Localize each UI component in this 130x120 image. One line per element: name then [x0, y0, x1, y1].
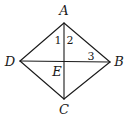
point-label-a: A — [58, 3, 68, 18]
point-label-c: C — [59, 102, 69, 117]
point-label-d: D — [4, 54, 16, 69]
rhombus-diagram: ABCDE123 — [0, 0, 130, 120]
point-label-e: E — [51, 64, 62, 79]
angle-label-3: 3 — [88, 50, 95, 63]
angle-label-1: 1 — [55, 34, 62, 47]
angle-label-2: 2 — [67, 34, 74, 47]
diagram-edges — [20, 23, 110, 99]
segment-DB — [20, 61, 110, 62]
point-label-b: B — [113, 54, 124, 69]
segment-BC — [64, 62, 110, 99]
